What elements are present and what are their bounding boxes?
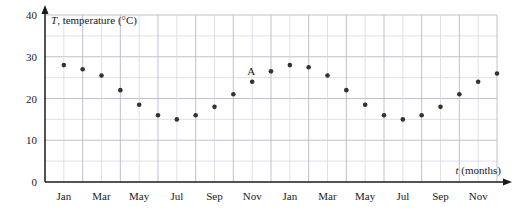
x-axis-tick-label: Jul [170,190,183,202]
y-axis-tick-label: 40 [26,9,38,21]
data-point [175,117,180,122]
data-point [363,102,368,107]
data-point [156,113,161,118]
data-point [419,113,424,118]
x-axis-tick-label: Sep [206,190,223,202]
data-point [231,92,236,97]
data-point [306,65,311,70]
data-point [288,63,293,68]
x-axis-tick-label: May [129,190,150,202]
x-axis-title-text: (months) [459,164,502,177]
data-point [457,92,462,97]
x-axis-tick-label: Nov [469,190,488,202]
data-point [382,113,387,118]
data-point [99,73,104,78]
annotation-label-a: A [247,65,255,77]
temperature-scatter-chart: 010203040 JanMarMayJulSepNovJanMarMayJul… [0,0,514,215]
data-point [62,63,67,68]
x-axis-tick-label: Mar [318,190,337,202]
y-axis-tick-label: 30 [26,51,38,63]
y-axis-title: T, temperature (°C) [51,14,137,27]
data-point [476,80,481,85]
x-axis-tick-label: Jan [56,190,71,202]
data-point [344,88,349,93]
y-axis-title-text: , temperature (°C) [57,14,137,27]
data-point [495,71,500,76]
data-point [137,102,142,107]
data-point [118,88,123,93]
data-point [80,67,85,72]
x-axis-tick-label: Jan [282,190,297,202]
chart-canvas: 010203040 JanMarMayJulSepNovJanMarMayJul… [0,0,514,215]
point-annotations: A [247,65,255,77]
data-point [325,73,330,78]
data-point [193,113,198,118]
x-axis-tick-label: Mar [92,190,111,202]
data-point [438,105,443,110]
y-axis-tick-label: 10 [26,134,38,146]
x-axis-tick-label: Sep [432,190,449,202]
x-axis-title: t (months) [455,164,501,177]
data-point [401,117,406,122]
x-axis-tick-label: May [355,190,376,202]
data-point [269,69,274,74]
x-axis-tick-label: Nov [243,190,262,202]
y-axis-tick-label: 0 [32,176,38,188]
x-axis-tick-label: Jul [396,190,409,202]
data-point [212,105,217,110]
y-axis-tick-label: 20 [26,93,38,105]
data-point [250,80,255,85]
